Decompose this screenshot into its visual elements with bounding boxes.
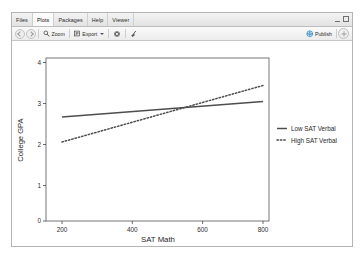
tabstrip-filler [134,13,352,26]
y-axis-tick-labels: 4 3 2 1 0 [37,59,41,225]
export-button[interactable]: Export [71,28,107,39]
y-tick-label: 1 [37,182,41,189]
tab-help[interactable]: Help [88,13,109,26]
gear-icon [341,31,347,37]
export-button-label: Export [82,31,97,37]
y-tick-label: 4 [37,59,41,66]
tab-viewer[interactable]: Viewer [108,13,134,26]
x-axis-label: SAT Math [141,235,175,244]
y-tick-label: 3 [37,100,41,107]
plot-figure: 4 3 2 1 0 College GPA 200 [12,41,352,246]
legend-label-low-sat-verbal: Low SAT Verbal [291,125,336,132]
y-tick-label: 0 [37,217,41,224]
forward-arrow-icon[interactable] [26,29,36,39]
plot-pane-screenshot: Files Plots Packages Help Viewer [0,0,364,268]
x-tick-label: 400 [127,226,138,233]
broom-icon [130,30,138,38]
settings-button[interactable] [338,28,349,39]
remove-plot-icon [113,30,121,38]
export-icon [74,30,81,37]
remove-plot-button[interactable] [110,28,124,39]
zoom-button[interactable]: Zoom [40,28,68,39]
x-axis-tick-labels: 200 400 600 800 [57,226,269,233]
back-arrow-icon[interactable] [15,29,25,39]
publish-button-label: Publish [315,31,332,37]
zoom-button-label: Zoom [52,31,65,37]
minimize-icon[interactable] [335,21,340,22]
x-tick-label: 200 [57,226,68,233]
tab-packages[interactable]: Packages [54,13,87,26]
tab-files-label: Files [16,17,28,23]
y-axis-ticks [43,63,46,222]
tab-help-label: Help [92,17,104,23]
y-tick-label: 2 [37,141,41,148]
chevron-down-icon [100,33,104,35]
x-tick-label: 800 [258,226,269,233]
clear-plots-button[interactable] [127,28,141,39]
publish-icon [306,30,314,38]
plot-canvas[interactable]: 4 3 2 1 0 College GPA 200 [12,41,352,246]
tab-plots-label: Plots [37,17,49,23]
plot-panel-border [46,58,269,221]
maximize-icon[interactable] [343,16,349,22]
y-axis-label: College GPA [16,117,25,161]
legend-label-high-sat-verbal: High SAT Verbal [291,137,337,145]
publish-button[interactable]: Publish [303,28,335,39]
tab-packages-label: Packages [58,17,82,23]
x-tick-label: 600 [197,226,208,233]
toolbar-separator-4 [125,29,126,38]
toolbar-separator-3 [108,29,109,38]
toolbar-separator-2 [69,29,70,38]
tab-plots[interactable]: Plots [33,13,54,26]
pane-tabstrip: Files Plots Packages Help Viewer [12,13,352,27]
tab-files[interactable]: Files [12,13,33,26]
window-controls [335,16,349,22]
toolbar-separator-1 [38,29,39,38]
plots-pane: Files Plots Packages Help Viewer [11,12,353,247]
magnifier-icon [43,30,50,37]
plots-toolbar: Zoom Export [12,27,352,41]
x-axis-ticks [62,221,263,224]
plot-legend: Low SAT Verbal High SAT Verbal [277,125,337,145]
toolbar-separator-5 [336,29,337,38]
tab-viewer-label: Viewer [112,17,129,23]
